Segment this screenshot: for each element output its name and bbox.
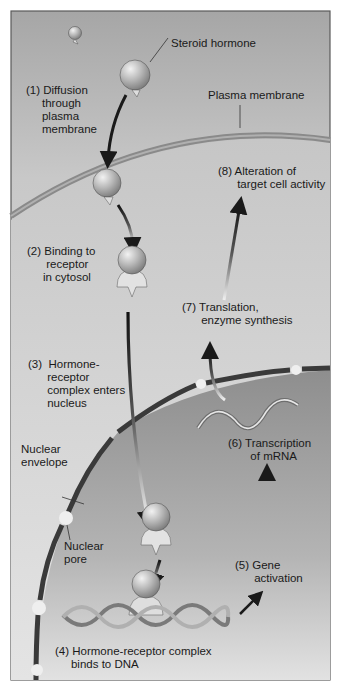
label-nuclear-pore: Nuclear pore [64, 540, 104, 566]
label-step-5: (5) Gene activation [235, 559, 303, 585]
label-step-3: (3) Hormone- receptor complex enters nuc… [28, 358, 125, 410]
label-steroid-hormone: Steroid hormone [171, 37, 256, 50]
label-step-4: (4) Hormone-receptor complex binds to DN… [55, 645, 212, 671]
label-nuclear-envelope: Nuclear envelope [21, 443, 68, 469]
label-step-2: (2) Binding to receptor in cytosol [27, 245, 95, 284]
label-step-1: (1) Diffusion through plasma membrane [26, 84, 97, 136]
label-step-7: (7) Translation, enzyme synthesis [182, 301, 293, 327]
label-step-6: (6) Transcription of mRNA [228, 437, 311, 463]
label-step-8: (8) Alteration of target cell activity [218, 165, 325, 191]
label-plasma-membrane: Plasma membrane [208, 89, 305, 102]
